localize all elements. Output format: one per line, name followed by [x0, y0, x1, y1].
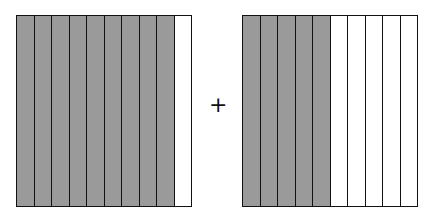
shaded-part [243, 16, 261, 206]
plus-sign: + [209, 94, 227, 116]
shaded-part [140, 16, 158, 206]
shaded-part [296, 16, 314, 206]
shaded-part [52, 16, 70, 206]
shaded-part [122, 16, 140, 206]
unshaded-part [401, 16, 418, 206]
right-fraction-model [242, 15, 418, 207]
shaded-part [17, 16, 35, 206]
unshaded-part [348, 16, 366, 206]
shaded-part [157, 16, 175, 206]
unshaded-part [383, 16, 401, 206]
unshaded-part [331, 16, 349, 206]
shaded-part [87, 16, 105, 206]
unshaded-part [366, 16, 384, 206]
shaded-part [35, 16, 53, 206]
shaded-part [261, 16, 279, 206]
left-fraction-model [16, 15, 192, 207]
unshaded-part [175, 16, 192, 206]
shaded-part [313, 16, 331, 206]
shaded-part [70, 16, 88, 206]
shaded-part [105, 16, 123, 206]
shaded-part [278, 16, 296, 206]
